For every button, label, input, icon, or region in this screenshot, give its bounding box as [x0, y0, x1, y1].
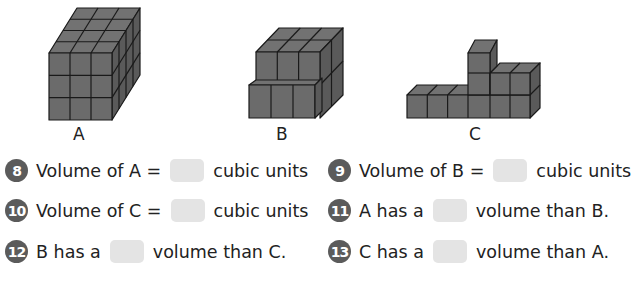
question-8: 8 Volume of A = cubic units — [5, 159, 308, 182]
question-10: 10 Volume of C = cubic units — [5, 199, 308, 222]
question-number-badge: 8 — [5, 159, 28, 182]
question-text-before: B has a — [36, 242, 101, 262]
figure-a-label: A — [73, 124, 85, 144]
question-number-badge: 9 — [328, 159, 351, 182]
figure-b — [249, 28, 343, 118]
question-text-before: A has a — [359, 201, 424, 221]
question-11: 11 A has a volume than B. — [328, 199, 609, 222]
question-text-before: C has a — [359, 242, 424, 262]
figure-c-label: C — [469, 124, 481, 144]
question-12: 12 B has a volume than C. — [5, 240, 286, 263]
question-text-after: cubic units — [214, 201, 309, 221]
answer-box[interactable] — [433, 240, 467, 263]
question-text-before: Volume of B = — [359, 161, 484, 181]
question-number-badge: 12 — [5, 240, 28, 263]
answer-box[interactable] — [493, 159, 527, 182]
question-text-after: volume than A. — [476, 242, 609, 262]
question-13: 13 C has a volume than A. — [328, 240, 609, 263]
figure-c — [407, 40, 540, 118]
figure-a — [49, 8, 140, 120]
figure-b-label: B — [276, 124, 288, 144]
question-text-after: volume than B. — [476, 201, 609, 221]
question-number-badge: 10 — [5, 199, 28, 222]
question-number-badge: 11 — [328, 199, 351, 222]
question-text-after: volume than C. — [153, 242, 287, 262]
question-text-before: Volume of C = — [36, 201, 162, 221]
question-text-before: Volume of A = — [36, 161, 161, 181]
answer-box[interactable] — [171, 199, 205, 222]
question-text-after: cubic units — [536, 161, 631, 181]
answer-box[interactable] — [170, 159, 204, 182]
question-9: 9 Volume of B = cubic units — [328, 159, 631, 182]
answer-box[interactable] — [433, 199, 467, 222]
answer-box[interactable] — [110, 240, 144, 263]
question-text-after: cubic units — [213, 161, 308, 181]
question-number-badge: 13 — [328, 240, 351, 263]
